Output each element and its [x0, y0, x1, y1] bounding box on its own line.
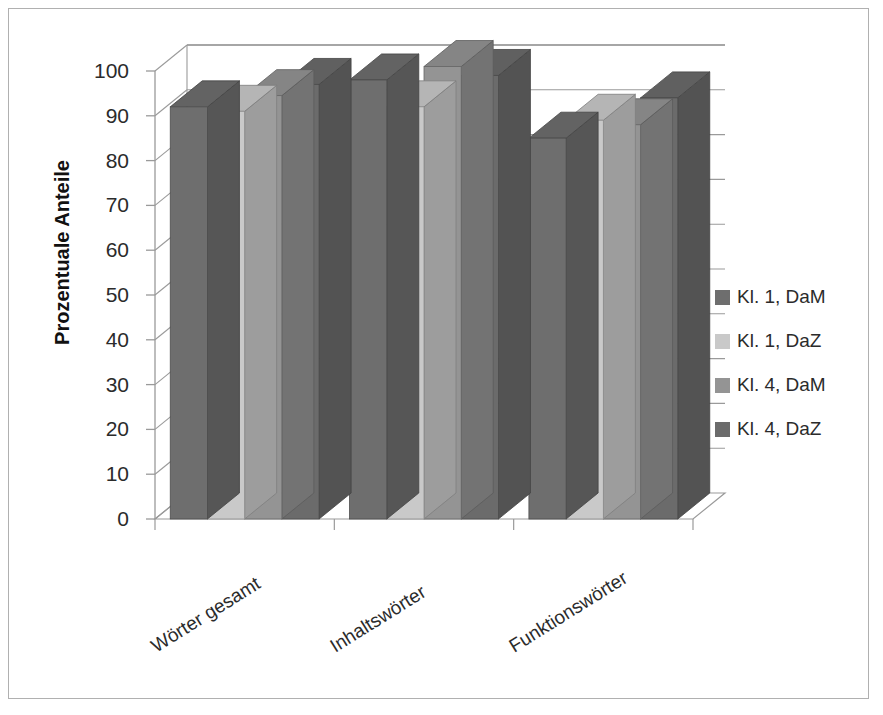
- y-axis-tick-label: 80: [83, 150, 129, 171]
- legend-swatch-icon: [715, 290, 730, 305]
- y-axis-tick-label: 20: [83, 418, 129, 439]
- y-axis-tick-label: 0: [83, 508, 129, 529]
- y-axis-tick-label: 10: [83, 463, 129, 484]
- legend-swatch-icon: [715, 378, 730, 393]
- legend-item[interactable]: Kl. 4, DaZ: [715, 407, 865, 451]
- y-axis-tick-label: 70: [83, 194, 129, 215]
- chart-legend: Kl. 1, DaMKl. 1, DaZKl. 4, DaMKl. 4, DaZ: [715, 275, 865, 451]
- chart-figure: 1009080706050403020100 Prozentuale Antei…: [8, 8, 869, 699]
- legend-item-label: Kl. 1, DaM: [737, 286, 826, 308]
- y-axis-tick-label: 60: [83, 239, 129, 260]
- legend-item[interactable]: Kl. 4, DaM: [715, 363, 865, 407]
- legend-item-label: Kl. 4, DaZ: [737, 418, 821, 440]
- bar: [350, 54, 419, 519]
- y-axis-tick-label: 30: [83, 374, 129, 395]
- legend-item[interactable]: Kl. 1, DaM: [715, 275, 865, 319]
- y-axis-title: Prozentuale Anteile: [51, 138, 74, 368]
- chart-bars: [170, 41, 710, 519]
- legend-item-label: Kl. 4, DaM: [737, 374, 826, 396]
- y-axis-tick-label: 50: [83, 284, 129, 305]
- legend-swatch-icon: [715, 422, 730, 437]
- y-axis-tick-label: 40: [83, 329, 129, 350]
- y-axis-tick-label: 90: [83, 105, 129, 126]
- legend-swatch-icon: [715, 334, 730, 349]
- y-axis-tick-label: 100: [83, 60, 129, 81]
- legend-item[interactable]: Kl. 1, DaZ: [715, 319, 865, 363]
- bar: [170, 81, 239, 519]
- bar: [529, 112, 598, 519]
- legend-item-label: Kl. 1, DaZ: [737, 330, 821, 352]
